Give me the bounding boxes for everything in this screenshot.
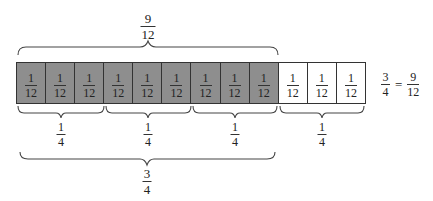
strip-cell-6: 112 — [162, 63, 191, 103]
bottom-brace — [20, 152, 275, 165]
quarter-label-2: 14 — [144, 121, 153, 148]
fraction-strip: 112 112 112 112 112 112 112 112 112 112 … — [16, 62, 366, 104]
cell-denominator: 12 — [229, 87, 241, 99]
cell-numerator: 1 — [173, 72, 179, 84]
cell-denominator: 12 — [25, 87, 37, 99]
quarter-brace-2 — [106, 106, 191, 118]
cell-numerator: 1 — [115, 72, 121, 84]
equivalence-equation: 34 = 912 — [381, 71, 419, 98]
cell-denominator: 12 — [112, 87, 124, 99]
bottom-label-denominator: 4 — [144, 183, 151, 196]
cell-denominator: 12 — [200, 87, 212, 99]
equation-left-numerator: 3 — [383, 71, 389, 83]
quarter-numerator: 1 — [58, 121, 64, 133]
quarter-denominator: 4 — [232, 136, 238, 148]
strip-cell-3: 112 — [75, 63, 104, 103]
cell-denominator: 12 — [170, 87, 182, 99]
quarter-label-4: 14 — [318, 121, 327, 148]
cell-denominator: 12 — [54, 87, 66, 99]
equation-right-denominator: 12 — [407, 86, 419, 98]
top-label-denominator: 12 — [141, 28, 156, 41]
cell-numerator: 1 — [144, 72, 150, 84]
quarter-label-3: 14 — [231, 121, 240, 148]
bottom-label-numerator: 3 — [144, 167, 151, 180]
cell-numerator: 1 — [57, 72, 63, 84]
equals-sign: = — [395, 77, 402, 93]
quarter-denominator: 4 — [145, 136, 151, 148]
cell-numerator: 1 — [86, 72, 92, 84]
bottom-brace-label: 34 — [143, 167, 152, 196]
cell-numerator: 1 — [203, 72, 209, 84]
cell-denominator: 12 — [287, 87, 299, 99]
quarter-brace-1 — [18, 106, 104, 118]
equation-right-numerator: 9 — [410, 71, 416, 83]
quarter-numerator: 1 — [232, 121, 238, 133]
strip-cell-11: 112 — [308, 63, 337, 103]
cell-denominator: 12 — [345, 87, 357, 99]
strip-cell-5: 112 — [133, 63, 162, 103]
equation-left-denominator: 4 — [383, 86, 389, 98]
strip-cell-12: 112 — [337, 63, 365, 103]
strip-cell-10: 112 — [279, 63, 308, 103]
top-brace-label: 9 12 — [141, 12, 156, 41]
strip-cell-2: 112 — [46, 63, 75, 103]
cell-numerator: 1 — [261, 72, 267, 84]
equation-left-fraction: 34 — [381, 71, 390, 98]
quarter-brace-3 — [193, 106, 277, 118]
cell-denominator: 12 — [258, 87, 270, 99]
cell-numerator: 1 — [290, 72, 296, 84]
strip-cell-7: 112 — [191, 63, 220, 103]
cell-denominator: 12 — [316, 87, 328, 99]
equation-right-fraction: 912 — [407, 71, 419, 98]
top-brace — [18, 41, 278, 55]
top-label-numerator: 9 — [144, 12, 153, 25]
strip-cell-8: 112 — [221, 63, 250, 103]
cell-numerator: 1 — [319, 72, 325, 84]
strip-cell-1: 112 — [17, 63, 46, 103]
cell-denominator: 12 — [141, 87, 153, 99]
quarter-numerator: 1 — [319, 121, 325, 133]
cell-numerator: 1 — [28, 72, 34, 84]
quarter-numerator: 1 — [145, 121, 151, 133]
quarter-denominator: 4 — [319, 136, 325, 148]
cell-numerator: 1 — [232, 72, 238, 84]
quarter-label-1: 14 — [57, 121, 66, 148]
cell-denominator: 12 — [83, 87, 95, 99]
quarter-denominator: 4 — [58, 136, 64, 148]
cell-numerator: 1 — [348, 72, 354, 84]
strip-cell-4: 112 — [104, 63, 133, 103]
strip-cell-9: 112 — [250, 63, 279, 103]
quarter-brace-4 — [280, 106, 364, 118]
